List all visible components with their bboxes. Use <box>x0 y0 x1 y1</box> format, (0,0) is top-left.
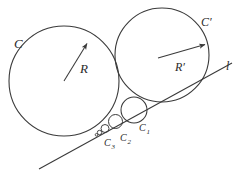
circle-c-prime <box>115 8 209 102</box>
label-c3-letter: C <box>104 137 111 148</box>
label-circle-c1: C 1 <box>139 122 150 136</box>
label-circle-c2: C 2 <box>120 132 132 146</box>
circle-c3 <box>101 125 109 133</box>
label-c1-subscript: 1 <box>147 128 151 136</box>
label-radius-r: R <box>79 61 88 76</box>
geometry-figure: C C′ R R′ l C 1 C 2 C 3 <box>0 0 237 175</box>
label-c2-letter: C <box>120 132 127 143</box>
label-circle-c3: C 3 <box>104 137 116 151</box>
label-line-l: l <box>226 59 230 73</box>
diagram-canvas: C C′ R R′ l C 1 C 2 C 3 <box>0 0 237 175</box>
label-c1-letter: C <box>139 122 146 133</box>
label-circle-c: C <box>14 36 23 51</box>
circle-c1 <box>121 97 147 123</box>
label-radius-r-prime: R′ <box>174 60 185 74</box>
label-c2-subscript: 2 <box>128 138 132 146</box>
label-c3-subscript: 3 <box>111 143 116 151</box>
circle-c5 <box>95 134 98 137</box>
label-circle-c-prime: C′ <box>201 15 212 29</box>
radius-arrow-r-prime <box>158 45 205 59</box>
